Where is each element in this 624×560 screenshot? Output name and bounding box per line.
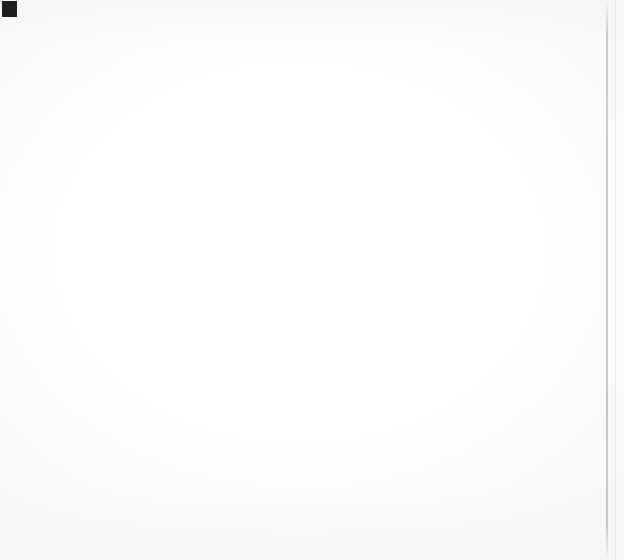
category-label: Monaco <box>70 519 140 542</box>
bar <box>148 290 403 315</box>
bar-chart-row: Japan50% <box>0 93 624 131</box>
bar-chart-row: Germany45% <box>0 207 624 245</box>
bar <box>148 252 440 277</box>
bar-chart-row: United States39.6% <box>0 283 624 321</box>
category-label: United States <box>15 291 140 314</box>
bar-chart-row: Russia13% <box>0 473 624 511</box>
value-label: 39.6% <box>411 291 467 314</box>
value-label: 29% <box>345 329 384 352</box>
category-label: Bolivia <box>82 443 140 466</box>
bar <box>148 214 440 239</box>
category-label: China <box>89 253 140 276</box>
value-label: 45% <box>448 253 487 276</box>
category-label: Singapore <box>51 367 140 390</box>
chart-page: Highest Marginal Tax Rate (2013) Denmark… <box>0 0 624 560</box>
chart-title: Highest Marginal Tax Rate (2013) <box>148 26 548 48</box>
scan-line-artifact-secondary <box>615 0 616 560</box>
category-label: Japan <box>87 101 141 124</box>
value-label: 20% <box>286 367 325 390</box>
bar-chart-row: Singapore20% <box>0 359 624 397</box>
bar-chart-row: Cuba50% <box>0 131 624 169</box>
bar <box>148 404 247 429</box>
register-mark-icon <box>2 1 17 17</box>
category-label: Denmark <box>60 63 140 86</box>
scan-line-artifact <box>606 0 608 560</box>
bar-chart-row: China45% <box>0 245 624 283</box>
category-label: Hong Kong <box>42 405 140 428</box>
category-label: Australia <box>64 177 140 200</box>
value-label: 50% <box>480 139 519 162</box>
value-label: 15% <box>255 405 294 428</box>
bar-chart-row: Bolivia13% <box>0 435 624 473</box>
value-label: 50% <box>480 101 519 124</box>
value-label: 0% <box>188 519 217 542</box>
value-label: 45% <box>448 215 487 238</box>
bar-chart-row: Canada29% <box>0 321 624 359</box>
bar-chart-rows: Denmark61%Japan50%Cuba50%Australia45%Ger… <box>0 55 624 549</box>
bar <box>148 62 543 87</box>
category-label: Russia <box>80 481 140 504</box>
category-label: Germany <box>59 215 140 238</box>
category-label: Canada <box>71 329 140 352</box>
value-label: 13% <box>241 481 280 504</box>
bar <box>148 480 233 505</box>
bar <box>148 176 440 201</box>
bar <box>148 366 278 391</box>
bar <box>148 328 337 353</box>
bar-chart-row: Denmark61% <box>0 55 624 93</box>
value-label: 61% <box>551 63 590 86</box>
bar-chart-row: Hong Kong15% <box>0 397 624 435</box>
category-label: Cuba <box>93 139 140 162</box>
value-label: 45% <box>448 177 487 200</box>
value-label: 13% <box>241 443 280 466</box>
bar <box>148 442 233 467</box>
bar-chart-row: Australia45% <box>0 169 624 207</box>
bar-chart-row: Monaco0% <box>0 511 624 549</box>
bar <box>148 138 472 163</box>
bar <box>148 100 472 125</box>
